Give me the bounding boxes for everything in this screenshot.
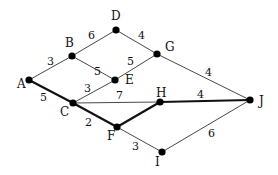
node-D [112,26,119,33]
edge-weight-C-H: 7 [116,89,123,102]
edge-weight-G-J: 4 [205,66,212,79]
edge-weight-C-F: 2 [85,116,92,129]
edge-weight-E-G: 5 [127,55,134,68]
node-label-D: D [111,9,121,23]
weighted-graph-diagram: 3565372454436 ABCDEFGHIJ [0,0,278,175]
edge-I-J [162,100,250,152]
node-E [111,76,118,83]
node-label-C: C [60,105,69,119]
edge-F-H [117,102,160,127]
node-label-G: G [165,40,175,54]
edge-weight-C-E: 3 [84,82,91,95]
edge-weight-B-E: 5 [94,65,101,78]
nodes [25,26,253,155]
edge-E-G [115,54,157,80]
edge-H-J [160,100,250,102]
node-label-I: I [155,155,160,169]
edge-F-I [117,127,162,152]
node-A [25,76,32,83]
edge-weight-H-J: 4 [197,88,204,101]
edge-weight-D-G: 4 [138,29,145,42]
node-label-H: H [156,86,166,100]
edge-weight-I-J: 6 [208,127,215,140]
edge-weight-A-C: 5 [40,91,47,104]
node-C [69,99,76,106]
edge-weight-F-I: 3 [132,140,139,153]
edge-D-G [116,30,157,54]
edge-weight-A-B: 3 [47,55,54,68]
edge-C-E [73,80,115,103]
node-label-B: B [65,36,74,50]
edge-A-C [29,80,73,103]
node-label-J: J [257,94,264,108]
edge-C-H [73,102,160,103]
edge-C-F [73,103,117,127]
node-label-E: E [125,73,134,87]
edges [29,30,250,152]
node-J [246,96,253,103]
edge-weight-B-D: 6 [88,29,95,42]
node-B [68,52,75,59]
node-G [153,50,160,57]
node-label-F: F [107,129,115,143]
node-label-A: A [16,77,26,91]
